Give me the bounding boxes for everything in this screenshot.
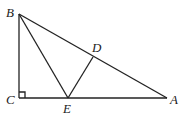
right-angle-marker — [19, 92, 25, 98]
label-c: C — [6, 92, 15, 107]
label-e: E — [62, 101, 71, 116]
segment-ab — [19, 14, 167, 98]
label-a: A — [169, 92, 178, 107]
segment-be — [19, 14, 68, 98]
geometry-diagram: B C E A D — [0, 0, 182, 117]
label-d: D — [91, 40, 102, 55]
label-b: B — [6, 5, 14, 20]
segment-ed — [68, 57, 93, 98]
